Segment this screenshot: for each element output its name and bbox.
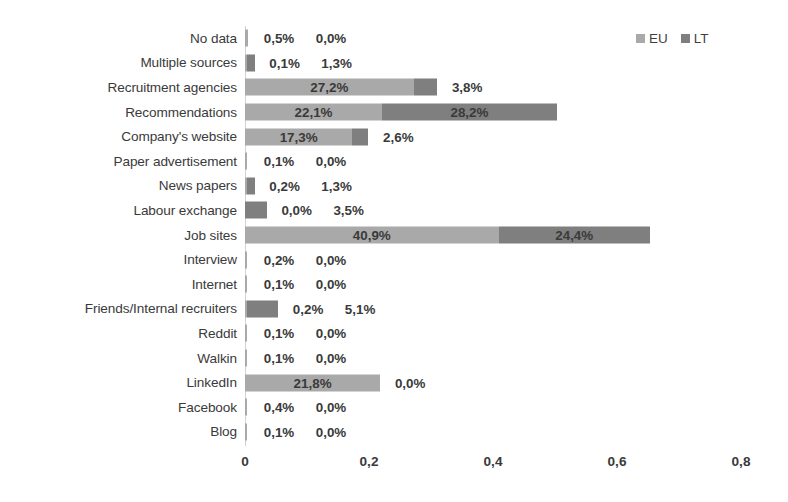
- data-label-lt: 3,5%: [333, 203, 364, 218]
- chart-row: Friends/Internal recruiters0,2%5,1%: [0, 297, 788, 322]
- category-label: Blog: [0, 424, 245, 439]
- category-label: Paper advertisement: [0, 154, 245, 169]
- data-label-lt: 1,3%: [321, 178, 352, 193]
- data-label-lt: 2,6%: [383, 129, 414, 144]
- bar-segment-lt[interactable]: [247, 54, 255, 71]
- data-label-lt: 0,0%: [316, 154, 347, 169]
- data-label-lt: 0,0%: [316, 277, 347, 292]
- data-label-eu: 22,1%: [295, 105, 333, 120]
- bar-track: 0,2%1,3%: [245, 174, 788, 199]
- x-axis-tick-label: 0,4: [484, 454, 503, 469]
- chart-row: Internet0,1%0,0%: [0, 272, 788, 297]
- data-label-lt: 1,3%: [321, 55, 352, 70]
- data-label-lt: 0,0%: [395, 375, 426, 390]
- category-label: LinkedIn: [0, 375, 245, 390]
- chart-row: Labour exchange0,0%3,5%: [0, 198, 788, 223]
- chart-row: Company's website17,3%2,6%: [0, 124, 788, 149]
- category-label: Recommendations: [0, 105, 245, 120]
- bar-track: 21,8%0,0%: [245, 370, 788, 395]
- data-label-lt: 5,1%: [345, 301, 376, 316]
- category-label: Reddit: [0, 326, 245, 341]
- stacked-bar[interactable]: [245, 177, 255, 194]
- data-label-lt: 3,8%: [452, 80, 483, 95]
- data-label-eu: 0,1%: [264, 424, 295, 439]
- chart-row: Multiple sources0,1%1,3%: [0, 51, 788, 76]
- bar-segment-eu[interactable]: [245, 153, 247, 170]
- bar-segment-eu[interactable]: [245, 276, 247, 293]
- data-label-eu: 0,1%: [264, 326, 295, 341]
- chart-row: Recruitment agencies27,2%3,8%: [0, 75, 788, 100]
- category-label: Recruitment agencies: [0, 80, 245, 95]
- chart-row: No data0,5%0,0%: [0, 26, 788, 51]
- data-label-eu: 0,1%: [264, 351, 295, 366]
- plot-area: No data0,5%0,0%Multiple sources0,1%1,3%R…: [0, 26, 788, 446]
- stacked-bar[interactable]: [245, 399, 247, 416]
- chart-row: Interview0,2%0,0%: [0, 247, 788, 272]
- data-label-eu: 40,9%: [353, 228, 391, 243]
- chart-row: Walkin0,1%0,0%: [0, 346, 788, 371]
- bar-track: 0,2%5,1%: [245, 297, 788, 322]
- category-label: Multiple sources: [0, 55, 245, 70]
- bar-track: 0,1%0,0%: [245, 272, 788, 297]
- bar-segment-eu[interactable]: [245, 325, 247, 342]
- category-label: Facebook: [0, 400, 245, 415]
- chart-row: Blog0,1%0,0%: [0, 420, 788, 445]
- data-label-lt: 24,4%: [555, 228, 593, 243]
- bar-track: 22,1%28,2%: [245, 100, 788, 125]
- data-label-eu: 17,3%: [280, 129, 318, 144]
- bar-segment-eu[interactable]: [245, 251, 247, 268]
- category-label: Friends/Internal recruiters: [0, 301, 245, 316]
- data-label-eu: 0,2%: [269, 178, 300, 193]
- data-label-lt: 0,0%: [316, 31, 347, 46]
- x-axis-tick-label: 0,6: [608, 454, 627, 469]
- bar-segment-lt[interactable]: [247, 177, 255, 194]
- category-label: Walkin: [0, 351, 245, 366]
- chart-row: LinkedIn21,8%0,0%: [0, 370, 788, 395]
- stacked-bar[interactable]: [245, 54, 255, 71]
- bar-track: 27,2%3,8%: [245, 75, 788, 100]
- bar-segment-eu[interactable]: [245, 399, 247, 416]
- bar-segment-eu[interactable]: [245, 350, 247, 367]
- bar-track: 0,2%0,0%: [245, 247, 788, 272]
- data-label-eu: 21,8%: [294, 375, 332, 390]
- data-label-eu: 0,4%: [264, 400, 295, 415]
- stacked-bar-chart: EU LT No data0,5%0,0%Multiple sources0,1…: [0, 0, 788, 502]
- x-axis: 00,20,40,60,8: [0, 450, 788, 480]
- data-label-eu: 0,1%: [264, 277, 295, 292]
- bar-track: 0,1%0,0%: [245, 149, 788, 174]
- bar-segment-lt[interactable]: [245, 202, 267, 219]
- stacked-bar[interactable]: [245, 104, 557, 121]
- bar-track: 0,4%0,0%: [245, 395, 788, 420]
- data-label-lt: 0,0%: [316, 252, 347, 267]
- stacked-bar[interactable]: [245, 350, 247, 367]
- bar-track: 17,3%2,6%: [245, 124, 788, 149]
- bar-segment-lt[interactable]: [414, 79, 438, 96]
- stacked-bar[interactable]: [245, 325, 247, 342]
- bar-track: 0,1%0,0%: [245, 321, 788, 346]
- stacked-bar[interactable]: [245, 30, 248, 47]
- data-label-eu: 0,0%: [281, 203, 312, 218]
- bar-segment-lt[interactable]: [247, 300, 279, 317]
- bar-track: 0,0%3,5%: [245, 198, 788, 223]
- chart-row: Paper advertisement0,1%0,0%: [0, 149, 788, 174]
- stacked-bar[interactable]: [245, 251, 247, 268]
- data-label-eu: 0,5%: [264, 31, 295, 46]
- data-label-lt: 0,0%: [316, 351, 347, 366]
- stacked-bar[interactable]: [245, 202, 267, 219]
- data-label-lt: 0,0%: [316, 400, 347, 415]
- data-label-eu: 0,2%: [293, 301, 324, 316]
- chart-row: Recommendations22,1%28,2%: [0, 100, 788, 125]
- stacked-bar[interactable]: [245, 276, 247, 293]
- stacked-bar[interactable]: [245, 300, 278, 317]
- stacked-bar[interactable]: [245, 153, 247, 170]
- category-label: Internet: [0, 277, 245, 292]
- bar-segment-lt[interactable]: [352, 128, 368, 145]
- bar-segment-eu[interactable]: [245, 30, 248, 47]
- category-label: News papers: [0, 178, 245, 193]
- data-label-eu: 0,1%: [264, 154, 295, 169]
- data-label-eu: 0,1%: [269, 55, 300, 70]
- bar-track: 0,1%0,0%: [245, 420, 788, 445]
- category-label: Job sites: [0, 228, 245, 243]
- stacked-bar[interactable]: [245, 423, 247, 440]
- bar-segment-eu[interactable]: [245, 423, 247, 440]
